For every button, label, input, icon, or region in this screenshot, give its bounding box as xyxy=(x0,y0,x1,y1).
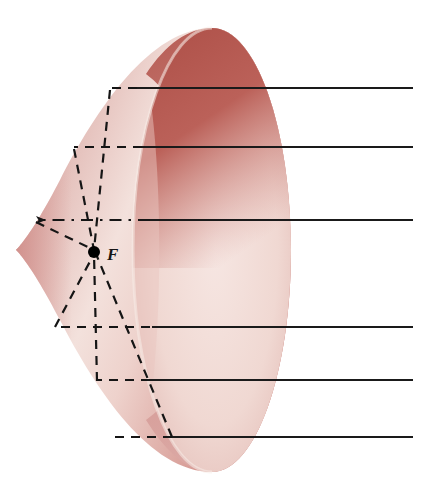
focus-dot-icon xyxy=(88,246,100,258)
parabolic-reflector-diagram: F xyxy=(0,0,438,485)
dish-left-edge-shade xyxy=(16,28,72,472)
focus-label: F xyxy=(106,245,119,264)
paraboloid-dish xyxy=(16,28,291,472)
figure-canvas: F xyxy=(0,0,438,485)
